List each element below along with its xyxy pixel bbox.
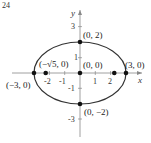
center-point <box>78 71 83 76</box>
figure-number: 24 <box>2 1 10 10</box>
y-axis-arrow-icon <box>78 10 82 15</box>
focus-point <box>112 71 117 76</box>
x-tick-label: 2 <box>108 77 112 86</box>
point-label: (−3, 0) <box>6 80 31 90</box>
y-axis-label: y <box>70 8 75 18</box>
ellipse-diagram: 24 x y -2 -1 1 2 3 1 -1 -3 (0, 2) (0, −2… <box>0 0 151 143</box>
point-label: (0, −2) <box>84 107 109 117</box>
y-tick-label: 3 <box>71 22 75 31</box>
focus-point <box>43 71 48 76</box>
vertex-point <box>78 40 83 45</box>
point-label: (3, 0) <box>125 60 145 70</box>
point-label: (−√5, 0) <box>39 59 69 69</box>
y-tick-label: -3 <box>68 115 75 124</box>
vertex-point <box>124 71 129 76</box>
y-tick-label: -1 <box>68 84 75 93</box>
x-axis-label: x <box>137 75 142 85</box>
point-label: (0, 2) <box>83 30 103 40</box>
x-tick-label: -1 <box>59 77 66 86</box>
vertex-point <box>78 102 83 107</box>
vertex-point <box>32 71 37 76</box>
x-tick-label: 1 <box>93 77 97 86</box>
y-tick-label: 1 <box>74 53 78 62</box>
point-label: (0, 0) <box>83 60 103 70</box>
x-tick-label: -2 <box>44 77 51 86</box>
